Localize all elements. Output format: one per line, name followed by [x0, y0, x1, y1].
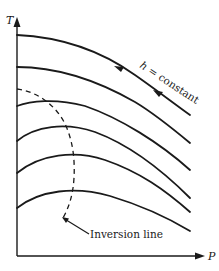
isenthalp-curve-5: [17, 155, 190, 212]
p-axis-label: P: [207, 250, 216, 263]
h-constant-text: = constant: [144, 62, 203, 106]
p-axis: [17, 253, 205, 260]
t-axis: [14, 17, 21, 256]
p-axis-arrowhead-icon: [195, 253, 205, 260]
flow-direction-arrow-icon-1: [114, 66, 124, 72]
flow-direction-arrow-icon-2: [153, 90, 163, 97]
t-axis-label: T: [6, 14, 15, 27]
h-constant-label: h = constant: [138, 59, 202, 107]
t-axis-arrowhead-icon: [14, 17, 21, 27]
leader-arrowhead-icon: [62, 217, 69, 223]
t-p-diagram: T P h = constant Inversion line: [0, 0, 219, 271]
isenthalp-curve-4: [17, 126, 190, 198]
inversion-line: [17, 89, 74, 218]
inversion-line-label: Inversion line: [90, 228, 163, 240]
isenthalp-curve-6: [17, 191, 190, 231]
